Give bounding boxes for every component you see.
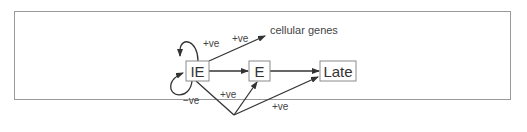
edge-label-junction-to-e: +ve <box>220 89 237 100</box>
edge-label-ie-to-cellular: +ve <box>232 33 249 44</box>
gene-cascade-diagram: +ve −ve +ve +ve +ve IE E Late cellula <box>0 0 527 132</box>
edge-label-ie-self-positive: +ve <box>203 38 220 49</box>
edge-label-ie-self-negative: −ve <box>183 95 200 106</box>
node-ie-label: IE <box>190 63 204 80</box>
edge-label-junction-to-late: +ve <box>272 101 289 112</box>
edge-junction-to-e: +ve <box>220 82 257 115</box>
node-cellular-genes-label: cellular genes <box>270 24 338 36</box>
node-late: Late <box>320 61 356 81</box>
self-loop-positive-arrow <box>180 42 198 61</box>
node-ie: IE <box>186 61 209 81</box>
node-e-label: E <box>254 63 264 80</box>
node-e: E <box>249 61 270 81</box>
edge-ie-self-positive: +ve <box>180 38 220 61</box>
node-late-label: Late <box>323 63 352 80</box>
